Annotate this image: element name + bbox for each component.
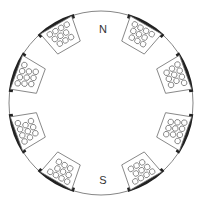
slot-outline [155, 55, 192, 98]
slot-outline [117, 149, 161, 190]
coil-slot [38, 14, 87, 58]
slot-outline [10, 55, 47, 98]
coil-slot [115, 14, 164, 58]
coil-slot [115, 148, 164, 192]
slot-outline [40, 16, 84, 57]
slot-outline [40, 149, 84, 190]
stator-ring [9, 11, 193, 195]
stator-diagram: N S [0, 0, 203, 206]
slot-outline [155, 108, 192, 151]
coil-slot [154, 53, 193, 101]
slot-outline [10, 108, 47, 151]
coil-slot [38, 148, 87, 192]
north-label: N [99, 23, 107, 35]
coil-slot [8, 53, 47, 101]
coil-slot [8, 106, 47, 154]
coil-slot [154, 106, 193, 154]
slot-outline [117, 16, 161, 57]
south-label: S [99, 174, 106, 186]
